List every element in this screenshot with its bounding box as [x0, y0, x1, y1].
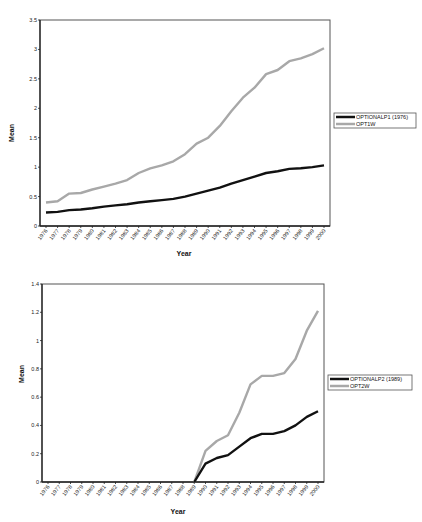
x-tick-label: 1982: [106, 484, 118, 497]
y-tick-label: 0.6: [31, 394, 39, 400]
x-tick-label: 1994: [241, 484, 253, 497]
x-tick-label: 1996: [268, 228, 280, 241]
x-tick-label: 1988: [175, 228, 187, 241]
x-tick-label: 1999: [297, 484, 309, 497]
x-tick-label: 1999: [303, 228, 315, 241]
legend-label-opt2w: OPT2W: [350, 383, 370, 389]
series-line: [194, 411, 318, 482]
series-line: [194, 311, 318, 482]
x-tick-label: 1990: [196, 484, 208, 497]
chart-1-x-axis-title: Year: [177, 250, 192, 257]
x-tick-label: 1985: [140, 484, 152, 497]
chart-2-x-axis-ticks: 1976197719781979198019811982198319841985…: [38, 482, 320, 497]
series-line: [46, 165, 324, 212]
legend-label-optionalp2: OPTIONALP2 (1989): [350, 376, 402, 382]
x-tick-label: 2000: [308, 484, 320, 497]
x-tick-label: 1987: [162, 484, 174, 497]
y-tick-label: 2: [34, 105, 37, 111]
x-tick-label: 1995: [256, 228, 268, 241]
chart-1-y-axis-ticks: 00.511.522.533.5: [29, 17, 40, 229]
series-line: [46, 48, 324, 202]
chart-2-y-axis-title: Mean: [18, 365, 25, 383]
y-tick-label: 1.2: [31, 309, 39, 315]
x-tick-label: 1977: [48, 228, 60, 241]
x-tick-label: 1991: [210, 228, 222, 241]
x-tick-label: 1995: [252, 484, 264, 497]
x-tick-label: 1979: [71, 228, 83, 241]
x-tick-label: 1981: [94, 228, 106, 241]
y-tick-label: 0.5: [29, 194, 37, 200]
x-tick-label: 1997: [280, 228, 292, 241]
chart-2-x-axis-title: Year: [171, 508, 186, 515]
y-tick-label: 3.5: [29, 17, 37, 23]
x-tick-label: 1981: [95, 484, 107, 497]
x-tick-label: 1993: [233, 228, 245, 241]
x-tick-label: 1993: [230, 484, 242, 497]
y-tick-label: 0: [36, 479, 39, 485]
y-tick-label: 0.2: [31, 451, 39, 457]
chart-2-y-axis-ticks: 00.20.40.60.811.21.4: [31, 281, 42, 485]
x-tick-label: 1978: [59, 228, 71, 241]
x-tick-label: 1992: [222, 228, 234, 241]
chart-2-optionalp2-opt2w: 00.20.40.60.811.21.4 1976197719781979198…: [0, 262, 422, 522]
chart-2-series-lines: [194, 311, 318, 482]
y-tick-label: 2.5: [29, 76, 37, 82]
x-tick-label: 1998: [291, 228, 303, 241]
chart-1-y-axis-title: Mean: [8, 124, 15, 142]
x-tick-label: 1979: [72, 484, 84, 497]
y-tick-label: 0.4: [31, 422, 39, 428]
chart-1-x-axis-ticks: 1976197719781979198019811982198319841985…: [36, 226, 326, 241]
y-tick-label: 1.5: [29, 135, 37, 141]
y-tick-label: 0.8: [31, 366, 39, 372]
x-tick-label: 1989: [185, 484, 197, 497]
legend-label-opt1w: OPT1W: [356, 121, 376, 127]
chart-2-plot-frame: [42, 284, 324, 482]
x-tick-label: 1986: [152, 228, 164, 241]
chart-1-plot-frame: [40, 20, 330, 226]
x-tick-label: 1987: [164, 228, 176, 241]
y-tick-label: 0: [34, 223, 37, 229]
x-tick-label: 1992: [218, 484, 230, 497]
x-tick-label: 1996: [263, 484, 275, 497]
legend-label-optionalp1: OPTIONALP1 (1976): [356, 114, 408, 120]
x-tick-label: 1990: [198, 228, 210, 241]
x-tick-label: 1986: [151, 484, 163, 497]
y-tick-label: 1: [34, 164, 37, 170]
x-tick-label: 1983: [117, 228, 129, 241]
x-tick-label: 1977: [50, 484, 62, 497]
x-tick-label: 1976: [38, 484, 50, 497]
x-tick-label: 1984: [129, 228, 141, 241]
x-tick-label: 1982: [106, 228, 118, 241]
chart-1-series-lines: [46, 48, 324, 212]
x-tick-label: 1983: [117, 484, 129, 497]
x-tick-label: 1985: [141, 228, 153, 241]
x-tick-label: 1997: [275, 484, 287, 497]
x-tick-label: 1989: [187, 228, 199, 241]
x-tick-label: 1980: [83, 484, 95, 497]
x-tick-label: 1994: [245, 228, 257, 241]
x-tick-label: 1980: [83, 228, 95, 241]
x-tick-label: 2000: [314, 228, 326, 241]
chart-1-optionalp1-opt1w: 00.511.522.533.5 19761977197819791980198…: [0, 0, 422, 262]
chart-2-legend: OPTIONALP2 (1989) OPT2W: [328, 375, 412, 390]
x-tick-label: 1978: [61, 484, 73, 497]
x-tick-label: 1991: [207, 484, 219, 497]
y-tick-label: 3: [34, 46, 37, 52]
x-tick-label: 1984: [128, 484, 140, 497]
y-tick-label: 1: [36, 338, 39, 344]
x-tick-label: 1998: [286, 484, 298, 497]
y-tick-label: 1.4: [31, 281, 39, 287]
x-tick-label: 1988: [173, 484, 185, 497]
x-tick-label: 1976: [36, 228, 48, 241]
chart-1-legend: OPTIONALP1 (1976) OPT1W: [334, 113, 416, 128]
